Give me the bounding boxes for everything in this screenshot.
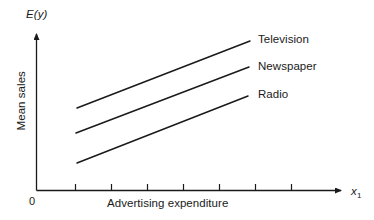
x-axis-title-symbol: x [351, 185, 357, 197]
x-axis-caption: Advertising expenditure [107, 198, 228, 210]
figure-container: E(y) x1 0 Advertising expenditure Mean s… [0, 0, 374, 220]
series-lines [76, 41, 250, 163]
series-label-radio: Radio [258, 89, 288, 101]
series-line-newspaper [76, 67, 249, 133]
series-line-radio [77, 96, 248, 163]
series-label-newspaper: Newspaper [258, 61, 317, 73]
x-axis-title: x1 [351, 186, 361, 198]
y-axis-caption: Mean sales [16, 61, 28, 141]
x-axis-ticks [76, 184, 292, 191]
y-axis-title: E(y) [26, 9, 47, 21]
series-line-television [77, 41, 250, 108]
x-axis-title-subscript: 1 [357, 191, 361, 200]
series-label-television: Television [258, 34, 309, 46]
plot-canvas [0, 0, 374, 220]
origin-label: 0 [29, 196, 35, 207]
